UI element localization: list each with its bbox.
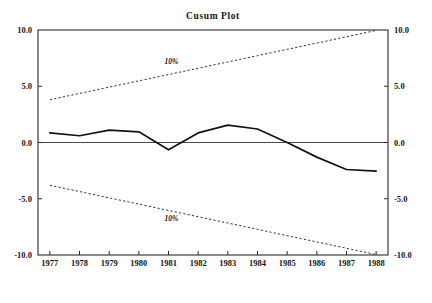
y-axis-ticks-right [384, 86, 388, 199]
cusum-plot-page: 10.05.00.0-5.0-10.0 10.05.00.0-5.0-10.0 … [0, 0, 432, 303]
cusum-series-line [50, 125, 376, 171]
x-tick-label: 1985 [279, 258, 296, 268]
x-tick-label: 1988 [368, 258, 385, 268]
upper-10pct-boundary [50, 30, 376, 99]
y-tick-label-right: 0.0 [394, 138, 405, 148]
x-axis-ticks [50, 251, 376, 255]
x-tick-label: 1981 [160, 258, 177, 268]
chart-title: Cusum Plot [186, 11, 240, 21]
y-tick-label-right: -10.0 [394, 250, 412, 260]
y-axis-ticks-left [38, 86, 42, 199]
x-tick-label: 1979 [101, 258, 118, 268]
x-tick-label: 1982 [190, 258, 207, 268]
boundary-annotations: 10%10% [165, 57, 179, 224]
y-tick-label-right: 10.0 [394, 25, 409, 35]
y-axis-labels-left: 10.05.00.0-5.0-10.0 [14, 25, 32, 260]
annotation-lower-10pct-boundary: 10% [165, 214, 179, 223]
x-tick-label: 1983 [219, 258, 236, 268]
x-axis-labels: 1977197819791980198119821983198419851986… [41, 258, 384, 268]
y-tick-label-left: 0.0 [21, 138, 32, 148]
y-tick-label-right: 5.0 [394, 81, 405, 91]
y-tick-label-left: -10.0 [14, 250, 32, 260]
y-tick-label-left: 10.0 [17, 25, 32, 35]
x-tick-label: 1977 [41, 258, 59, 268]
x-tick-label: 1984 [249, 258, 267, 268]
lower-10pct-boundary [50, 185, 376, 254]
x-tick-label: 1980 [130, 258, 147, 268]
x-tick-label: 1986 [308, 258, 325, 268]
y-tick-label-right: -5.0 [394, 194, 407, 204]
y-tick-label-left: 5.0 [21, 81, 32, 91]
annotation-upper-10pct-boundary: 10% [165, 57, 179, 66]
x-tick-label: 1987 [338, 258, 356, 268]
cusum-chart: 10.05.00.0-5.0-10.0 10.05.00.0-5.0-10.0 … [0, 0, 432, 303]
x-tick-label: 1978 [71, 258, 88, 268]
y-axis-labels-right: 10.05.00.0-5.0-10.0 [394, 25, 412, 260]
cusum-path [50, 125, 376, 171]
y-tick-label-left: -5.0 [19, 194, 32, 204]
